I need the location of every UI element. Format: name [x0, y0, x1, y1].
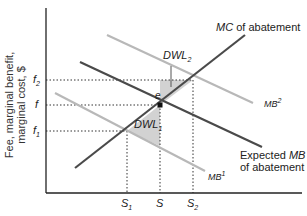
y-axis-label-line1: Fee, marginal benefit,: [3, 15, 15, 195]
equilibrium-point-e: [158, 103, 163, 108]
tick-s2: S2: [187, 198, 198, 211]
y-axis-label-line2: marginal cost, $: [15, 15, 27, 195]
dwl1-label: DWL1: [134, 119, 162, 132]
e-label: e: [155, 91, 161, 101]
tick-s1: S1: [121, 198, 132, 211]
mb2-label: MB2: [264, 97, 281, 109]
y-axis-label: Fee, marginal benefit, marginal cost, $: [3, 15, 27, 195]
dwl2-label: DWL2: [163, 50, 191, 63]
tick-s: S: [156, 198, 163, 209]
mc-label: MC of abatement: [216, 22, 300, 33]
tick-f2: f2: [33, 74, 40, 87]
tick-f1: f1: [33, 125, 40, 138]
mb1-label: MB1: [208, 170, 225, 182]
tick-f: f: [35, 99, 38, 110]
expected-mb-label: Expected MB of abatement: [240, 149, 305, 173]
